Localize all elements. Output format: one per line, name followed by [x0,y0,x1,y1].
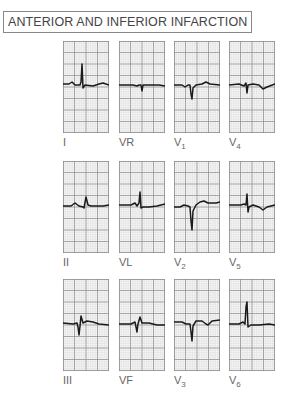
ecg-strip-v5 [229,161,275,253]
lead-label-text: VF [119,374,133,386]
ecg-trace [119,41,165,133]
ecg-trace [229,41,275,133]
ecg-strip-iii [63,279,109,371]
ecg-trace [63,41,109,133]
lead-label-text: III [63,374,72,386]
lead-label-subscript: 3 [181,380,185,389]
lead-label: VL [119,256,132,268]
lead-label-subscript: 6 [236,380,240,389]
ecg-strip-vl [119,161,165,253]
ecg-trace [174,279,220,371]
lead-label: V3 [174,374,186,389]
lead-label-text: I [63,136,66,148]
lead-label: V5 [229,256,241,271]
lead-label: I [63,136,66,148]
ecg-trace [119,279,165,371]
ecg-strip-ii [63,161,109,253]
lead-label-subscript: 1 [181,142,185,151]
ecg-strip-v4 [229,41,275,133]
lead-label: V4 [229,136,241,151]
ecg-strip-v3 [174,279,220,371]
ecg-trace [63,279,109,371]
lead-label: V2 [174,256,186,271]
lead-label: III [63,374,72,386]
lead-label: V6 [229,374,241,389]
ecg-strip-v6 [229,279,275,371]
lead-label-text: II [63,256,69,268]
lead-label-subscript: 5 [236,262,240,271]
lead-label: VF [119,374,133,386]
ecg-strip-v1 [174,41,220,133]
ecg-strip-i [63,41,109,133]
ecg-trace [119,161,165,253]
lead-label-subscript: 4 [236,142,240,151]
ecg-strip-vf [119,279,165,371]
lead-label: V1 [174,136,186,151]
ecg-trace [229,161,275,253]
lead-label-text: VR [119,136,134,148]
lead-label-subscript: 2 [181,262,185,271]
lead-label: II [63,256,69,268]
lead-label: VR [119,136,134,148]
ecg-trace [174,161,220,253]
ecg-strip-vr [119,41,165,133]
ecg-trace [63,161,109,253]
lead-label-text: VL [119,256,132,268]
ecg-strip-v2 [174,161,220,253]
ecg-trace [174,41,220,133]
figure-title: ANTERIOR AND INFERIOR INFARCTION [3,11,252,33]
ecg-trace [229,279,275,371]
